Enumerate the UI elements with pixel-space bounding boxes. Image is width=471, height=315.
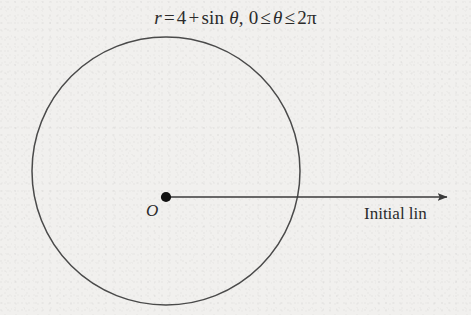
initial-line-label: Initial lin — [364, 203, 427, 224]
polar-figure: r=4+sin θ, 0≤θ≤2π O Initial lin — [0, 0, 471, 315]
polar-curve-circle — [32, 37, 300, 305]
pole-origin-dot — [161, 192, 171, 202]
origin-label: O — [146, 201, 158, 221]
figure-drawing-canvas — [0, 0, 471, 315]
